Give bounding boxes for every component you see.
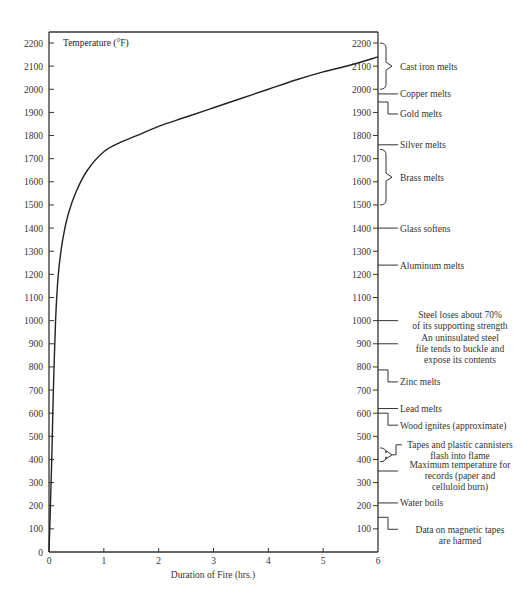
annotation: Silver melts [378, 140, 446, 150]
annotation: Gold melts [378, 102, 442, 120]
right-y-tick-label: 400 [357, 455, 372, 465]
y-tick-label: 2100 [24, 62, 43, 72]
right-y-tick-label: 1700 [352, 154, 371, 164]
annotation: Steel loses about 70%of its supporting s… [378, 310, 508, 331]
annotation-label: Silver melts [400, 140, 446, 150]
right-y-tick-label: 800 [357, 362, 372, 372]
fire-temperature-chart: 0100200300400500600700800900100011001200… [0, 0, 524, 602]
annotation-label: Steel loses about 70% [418, 310, 502, 320]
annotation: Aluminum melts [378, 261, 464, 271]
right-y-tick-label: 1100 [352, 293, 371, 303]
y-tick-label: 1600 [24, 177, 43, 187]
chart-title: Temperature (°F) [63, 38, 129, 49]
y-tick-label: 400 [29, 455, 44, 465]
y-tick-label: 200 [29, 501, 44, 511]
plot-frame [49, 32, 378, 552]
y-tick-label: 600 [29, 409, 44, 419]
right-y-tick-label: 1300 [352, 247, 371, 257]
y-tick-label: 1700 [24, 154, 43, 164]
annotation-label: of its supporting strength [412, 321, 508, 331]
y-tick-label: 900 [29, 339, 44, 349]
y-tick-label: 100 [29, 524, 44, 534]
annotation-label: Gold melts [400, 109, 442, 119]
right-y-tick-label: 1900 [352, 108, 371, 118]
annotation: Glass softens [378, 224, 451, 234]
x-tick-label: 6 [376, 556, 381, 566]
annotation-label: Aluminum melts [400, 261, 464, 271]
annotation-leader [392, 445, 402, 455]
annotation: Copper melts [378, 89, 451, 99]
annotation: Maximum temperature forrecords (paper an… [378, 460, 511, 493]
annotation-label: Glass softens [400, 224, 451, 234]
annotation-brace [380, 149, 392, 205]
right-y-tick-label: 100 [357, 524, 372, 534]
annotation-label: Data on magnetic tapes [416, 525, 505, 535]
right-y-tick-label: 2200 [352, 39, 371, 49]
y-tick-label: 1000 [24, 316, 43, 326]
annotation-label: Lead melts [400, 404, 442, 414]
y-tick-label: 2200 [24, 39, 43, 49]
annotation: Tapes and plastic cannistersflash into f… [380, 440, 513, 461]
annotation-label: Copper melts [400, 89, 451, 99]
annotation-leader [378, 517, 398, 529]
y-tick-label: 500 [29, 432, 44, 442]
y-tick-label: 700 [29, 386, 44, 396]
annotation-brace [380, 448, 392, 462]
annotation-label: Cast iron melts [400, 62, 458, 72]
right-y-tick-label: 2000 [352, 85, 371, 95]
right-y-tick-label: 1200 [352, 270, 371, 280]
annotations-group: Cast iron meltsCopper meltsGold meltsSil… [378, 43, 513, 546]
annotation: Data on magnetic tapesare harmed [378, 517, 505, 546]
annotation-label: celluloid burn) [432, 482, 488, 493]
x-tick-label: 4 [266, 556, 271, 566]
right-y-tick-label: 1500 [352, 200, 371, 210]
y-tick-label: 1200 [24, 270, 43, 280]
right-y-tick-label: 700 [357, 386, 372, 396]
annotation: Wood ignites (approximate) [378, 413, 506, 432]
right-y-tick-label: 1400 [352, 224, 371, 234]
right-y-tick-label: 300 [357, 478, 372, 488]
y-tick-label: 1800 [24, 131, 43, 141]
annotation-label: Wood ignites (approximate) [400, 421, 506, 432]
y-tick-label: 1100 [24, 293, 43, 303]
right-y-tick-label: 600 [357, 409, 372, 419]
y-tick-label: 1900 [24, 108, 43, 118]
right-y-tick-label: 1000 [352, 316, 371, 326]
annotation-label: are harmed [439, 536, 482, 546]
annotation-brace [380, 43, 392, 89]
x-tick-label: 1 [101, 556, 106, 566]
x-axis: 0123456 [47, 548, 381, 566]
x-tick-label: 2 [156, 556, 161, 566]
y-tick-label: 2000 [24, 85, 43, 95]
annotation-label: Maximum temperature for [410, 460, 512, 470]
annotation-label: An uninsulated steel [421, 333, 499, 343]
y-tick-label: 0 [38, 548, 43, 558]
x-tick-label: 3 [211, 556, 216, 566]
annotation-label: Zinc melts [400, 377, 441, 387]
y-tick-label: 1500 [24, 200, 43, 210]
annotation-label: Water boils [400, 498, 444, 508]
annotation-leader [378, 413, 398, 425]
x-axis-title: Duration of Fire (hrs.) [171, 570, 255, 581]
y-tick-label: 800 [29, 362, 44, 372]
annotation-label: file tends to buckle and [416, 344, 505, 354]
annotation: Zinc melts [378, 370, 441, 388]
annotation: Lead melts [378, 404, 442, 414]
annotation: Brass melts [380, 149, 444, 205]
right-y-tick-label: 500 [357, 432, 372, 442]
right-y-tick-label: 200 [357, 501, 372, 511]
right-y-axis: 1002003004005006007008009001000110012001… [352, 39, 378, 535]
annotation-label: Tapes and plastic cannisters [407, 440, 513, 450]
y-tick-label: 300 [29, 478, 44, 488]
annotation-label: expose its contents [424, 355, 496, 365]
right-y-tick-label: 1800 [352, 131, 371, 141]
annotation-label: records (paper and [425, 471, 496, 482]
annotation: Water boils [378, 498, 444, 508]
x-tick-label: 0 [47, 556, 52, 566]
annotation-label: Brass melts [400, 173, 444, 183]
annotation: Cast iron melts [380, 43, 458, 89]
y-tick-label: 1300 [24, 247, 43, 257]
right-y-tick-label: 900 [357, 339, 372, 349]
annotation-leader [378, 102, 398, 114]
fire-curve-line [49, 57, 378, 552]
